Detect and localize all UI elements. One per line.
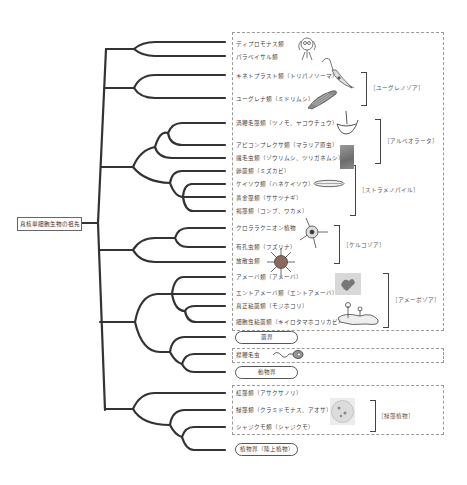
bracket-euglenozoa [361,72,367,106]
ceratium-illustration [334,110,360,136]
bracket-alveolata [375,119,381,164]
leaf-cellular-slime-molds: 細胞性粘菌類（キイロタマホコリカビ） [236,318,344,326]
leaf-green-algae: 緑藻類（クラミドモナス、アオサ） [236,406,332,414]
group-label-cercozoa: ［ケルコゾア］ [343,241,385,249]
trypanosoma-illustration [318,56,358,90]
leaf-dinoflagellates: 渦鞭毛藻類（ツノモ、ヤコウチュウ） [236,119,338,127]
leaf-plasmodial-slime-molds: 真正粘菌類（モジホコリ） [236,302,308,310]
ciliate-photo [340,145,354,169]
leaf-diplomonads: ディプロモナス類 [236,40,284,48]
kingdom-fungi: 菌界 [235,331,298,344]
bracket-amoebozoa [383,273,389,328]
leaf-diatoms: ケイソウ類（ハネケイソウ） [236,180,314,188]
kingdom-plants: 植物界（陸上植物） [235,443,298,456]
bracket-stramenopiles [350,165,356,216]
group-label-euglenozoa: ［ユーグレノゾア］ [370,84,424,92]
bracket-chlorophyta [370,400,376,432]
bracket-cercozoa [334,225,340,264]
group-label-chlorophyta: ［緑藻植物］ [378,412,414,420]
leaf-brown-algae: 褐藻類（コンブ、ワカメ） [236,207,308,215]
leaf-parabasalids: パラベイサル類 [236,53,278,61]
kingdom-animals: 動物界 [235,366,298,379]
choanoflagellate-illustration [272,349,306,360]
group-label-alveolata: ［アルベオラータ］ [384,137,438,145]
diatom-illustration [313,179,345,188]
leaf-euglenids: ユーグレナ類（ミドリムシ） [236,95,314,103]
group-label-amoebozoa: ［アメーボゾア］ [392,296,440,304]
leaf-red-algae: 紅藻類（アサクサノリ） [236,389,302,397]
leaf-oomycetes: 卵菌類（ミズカビ） [236,167,290,175]
diplomonad-illustration [296,36,318,62]
chlorarachniophyte-illustration [296,216,330,250]
radiolarian-illustration [266,247,296,277]
choanoflagellate-box [232,348,444,363]
euglena-illustration [306,88,340,110]
root-ancestor-label: 真核単細胞生物の祖先 [17,217,82,231]
leaf-charophytes: シャジクモ類（シャジクモ） [236,423,314,431]
leaf-apicomplexa: アピコンプレクサ類（マラリア原虫） [236,141,338,149]
slime-mold-illustration [336,300,382,328]
leaf-ciliates: 繊毛虫類（ゾウリムシ、ツリガネムシ） [236,154,344,162]
leaf-golden-algae: 黄金藻類（ササツナギ） [236,194,302,202]
leaf-chlorarachniophytes: クロララクニオン植物 [236,224,296,232]
leaf-radiolaria: 放散虫類 [236,257,260,265]
green-alga-photo [330,398,355,425]
group-label-stramenopiles: ［ストラメノパイル］ [359,186,419,194]
amoeba-photo [335,273,361,295]
leaf-entamoebae: エントアメーバ類（エントアメーバ） [236,289,338,297]
leaf-choanoflagellates: 襟鞭毛虫 [236,351,260,359]
